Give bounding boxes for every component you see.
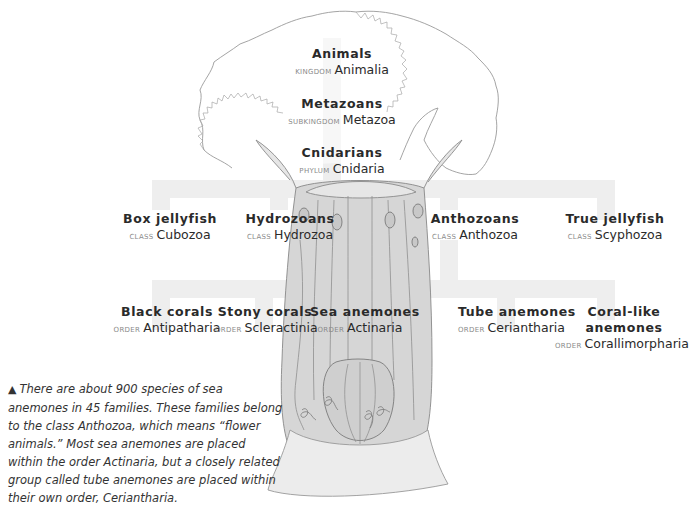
node-common-name: Hydrozoans (235, 211, 345, 227)
node-common-name: Animals (282, 46, 402, 62)
triangle-marker-icon: ▲ (8, 383, 16, 396)
node-common-name-line1: Coral-like (555, 304, 673, 320)
node-class-cubozoa: Box jellyfish ClassCubozoa (115, 211, 225, 245)
node-common-name: Black corals (112, 304, 222, 320)
rank-label: Order (318, 326, 345, 334)
node-order-corallimorpharia: Coral-like anemones OrderCorallimorphari… (555, 304, 673, 354)
node-phylum: Cnidarians PhylumCnidaria (282, 145, 402, 179)
scientific-name: Corallimorpharia (585, 336, 689, 351)
scientific-name: Anthozoa (459, 227, 518, 242)
node-class-anthozoa: Anthozoans ClassAnthozoa (425, 211, 525, 245)
scientific-name: Cubozoa (157, 227, 211, 242)
node-order-scleractinia: Stony corals OrderScleractinia (215, 304, 315, 338)
scientific-name: Metazoa (343, 112, 396, 127)
node-order-antipatharia: Black corals OrderAntipatharia (112, 304, 222, 338)
rank-label: Class (568, 233, 592, 241)
rank-label: Order (555, 342, 582, 350)
node-class-scyphozoa: True jellyfish ClassScyphozoa (560, 211, 670, 245)
node-common-name: True jellyfish (560, 211, 670, 227)
rank-label: Subkingdom (288, 118, 340, 126)
rank-label: Class (432, 233, 456, 241)
node-common-name: Anthozoans (425, 211, 525, 227)
scientific-name: Hydrozoa (274, 227, 333, 242)
caption: ▲There are about 900 species of sea anem… (8, 380, 283, 507)
rank-label: Phylum (299, 167, 329, 175)
scientific-name: Scyphozoa (595, 227, 663, 242)
scientific-name: Antipatharia (143, 320, 220, 335)
rank-label: Order (215, 326, 242, 334)
node-order-actinaria: Sea anemones OrderActinaria (310, 304, 410, 338)
node-common-name: Metazoans (272, 96, 412, 112)
scientific-name: Actinaria (347, 320, 402, 335)
scientific-name: Ceriantharia (488, 320, 565, 335)
rank-label: Class (247, 233, 271, 241)
rank-label: Kingdom (295, 68, 331, 76)
caption-text: There are about 900 species of sea anemo… (8, 382, 282, 505)
node-order-ceriantharia: Tube anemones OrderCeriantharia (458, 304, 558, 338)
node-kingdom: Animals KingdomAnimalia (282, 46, 402, 80)
node-subkingdom: Metazoans SubkingdomMetazoa (272, 96, 412, 130)
node-common-name: Box jellyfish (115, 211, 225, 227)
node-common-name: Stony corals (215, 304, 315, 320)
node-common-name: Cnidarians (282, 145, 402, 161)
rank-label: Order (114, 326, 141, 334)
rank-label: Class (129, 233, 153, 241)
node-common-name-line2: anemones (555, 320, 673, 336)
node-common-name: Sea anemones (310, 304, 410, 320)
scientific-name: Scleractinia (245, 320, 318, 335)
node-class-hydrozoa: Hydrozoans ClassHydrozoa (235, 211, 345, 245)
rank-label: Order (458, 326, 485, 334)
node-common-name: Tube anemones (458, 304, 558, 320)
scientific-name: Animalia (334, 62, 388, 77)
scientific-name: Cnidaria (333, 161, 385, 176)
